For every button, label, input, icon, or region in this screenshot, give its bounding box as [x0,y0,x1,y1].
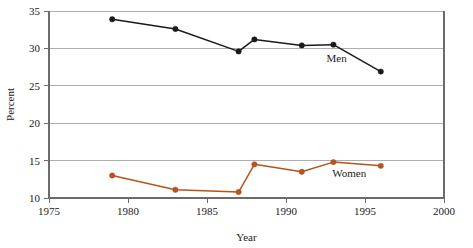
data-point-men-1987 [236,49,241,54]
data-point-women-1996 [378,163,383,168]
tick-marks-group [44,11,444,203]
y-tick-label-25: 25 [29,80,41,92]
data-point-men-1979 [110,17,115,22]
x-tick-label-1975: 1975 [38,205,61,217]
x-tick-label-2000: 2000 [433,205,456,217]
x-tick-label-1985: 1985 [196,205,219,217]
data-point-women-1988 [252,162,257,167]
x-tick-label-1990: 1990 [275,205,298,217]
y-tick-label-10: 10 [29,192,41,204]
data-point-men-1996 [378,69,383,74]
data-point-men-1983 [173,26,178,31]
y-tick-label-15: 15 [29,155,41,167]
data-point-men-1988 [252,37,257,42]
series-label-women: Women [332,167,366,179]
y-axis-title: Percent [4,88,16,121]
y-tick-label-35: 35 [29,5,41,17]
chart-container: 101520253035 197519801985199019952000 Me… [0,0,473,248]
data-point-men-1991 [299,43,304,48]
data-point-women-1987 [236,189,241,194]
axis-titles-group: YearPercent [4,88,257,243]
axes-group [49,11,444,198]
data-point-men-1993 [331,42,336,47]
y-tick-label-30: 30 [29,42,41,54]
series-label-men: Men [326,52,347,64]
data-point-women-1979 [110,173,115,178]
data-point-women-1993 [331,159,336,164]
x-tick-label-1980: 1980 [117,205,140,217]
data-point-women-1983 [173,187,178,192]
data-point-women-1991 [299,169,304,174]
gridlines-group [49,11,444,198]
x-axis-title: Year [236,231,257,243]
x-tick-label-1995: 1995 [354,205,377,217]
x-tick-labels-group: 197519801985199019952000 [38,205,456,217]
y-tick-label-20: 20 [29,117,41,129]
line-chart: 101520253035 197519801985199019952000 Me… [0,0,473,248]
y-tick-labels-group: 101520253035 [29,5,41,204]
